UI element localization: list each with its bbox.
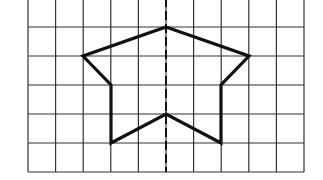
symmetry-diagram (0, 0, 323, 180)
